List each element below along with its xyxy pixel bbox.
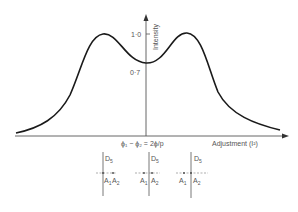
- y-axis-arrow-icon: [144, 14, 149, 21]
- alignment-diagram-1: D5 A1 A2: [96, 152, 120, 196]
- svg-text:A1: A1: [104, 177, 112, 186]
- y-tick-label-1: 1·0: [131, 31, 141, 38]
- svg-text:D5: D5: [151, 155, 159, 164]
- y-tick-label-07: 0·7: [130, 69, 140, 76]
- x-axis: [15, 134, 289, 139]
- alignment-diagram-2: D5 A1 A2: [135, 152, 160, 196]
- svg-text:D5: D5: [194, 155, 202, 164]
- alignment-diagram-3: D5 A1 A2: [176, 152, 208, 198]
- svg-text:A2: A2: [151, 177, 159, 186]
- x-axis-arrow-icon: [282, 134, 289, 139]
- svg-text:A2: A2: [112, 177, 120, 186]
- svg-text:A1: A1: [179, 177, 187, 186]
- svg-text:A1: A1: [140, 177, 148, 186]
- phase-equation: ϕ₁ − ϕ₂ = 2ϕ/p: [121, 140, 164, 148]
- intensity-curve: [16, 33, 280, 133]
- x-axis-label: Adjustment (I²): [212, 140, 258, 148]
- intensity-chart: 1·0 0·7 Intensity ϕ₁ − ϕ₂ = 2ϕ/p Adjustm…: [0, 0, 298, 212]
- svg-text:A2: A2: [193, 177, 201, 186]
- svg-text:D5: D5: [105, 155, 113, 164]
- y-axis-label: Intensity: [152, 23, 160, 50]
- y-axis: [144, 14, 151, 136]
